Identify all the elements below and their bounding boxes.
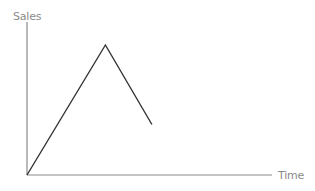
y-axis-label: Sales (13, 11, 41, 22)
sales-chart: Sales Time (0, 0, 315, 191)
x-axis-label: Time (278, 170, 304, 181)
sales-line (27, 45, 152, 175)
chart-canvas (0, 0, 315, 191)
